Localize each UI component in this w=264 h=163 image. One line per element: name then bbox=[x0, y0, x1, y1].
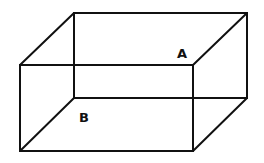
edge-top-right bbox=[193, 13, 247, 65]
edge-bottom-right bbox=[193, 98, 247, 151]
vertex-label-a: A bbox=[177, 47, 187, 60]
front-face bbox=[20, 65, 193, 151]
box-diagram: A B bbox=[0, 0, 264, 163]
edge-bottom-left bbox=[20, 98, 74, 151]
back-face bbox=[74, 13, 247, 98]
edge-top-left bbox=[20, 13, 74, 65]
vertex-label-b: B bbox=[79, 111, 89, 124]
box-wireframe bbox=[0, 0, 264, 163]
